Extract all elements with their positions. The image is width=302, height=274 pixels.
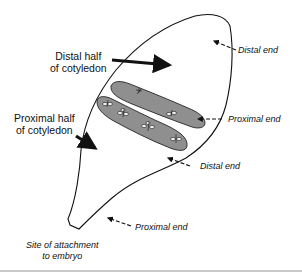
cotyledon-proximal-end-label: Proximal end <box>135 222 188 233</box>
proximal-half-label-line1: Proximal half <box>14 112 75 124</box>
cotyledon-proximal-end-arrow <box>108 218 131 226</box>
distal-half-label-line1: Distal half <box>50 50 107 62</box>
attachment-site-label-line1: Site of attachment <box>26 240 99 251</box>
attachment-site-label: Site of attachment to embryo <box>26 240 99 262</box>
strip-distal-end-label: Distal end <box>200 161 240 172</box>
distal-half-label: Distal half of cotyledon <box>50 50 107 74</box>
distal-half-label-line2: of cotyledon <box>50 62 107 74</box>
bottom-rule <box>0 270 302 272</box>
proximal-half-label: Proximal half of cotyledon <box>14 112 75 136</box>
cotyledon-distal-end-label: Distal end <box>238 45 278 56</box>
strip-proximal-end-label: Proximal end <box>228 114 281 125</box>
cotyledon-distal-end-arrow <box>214 41 236 50</box>
proximal-half-arrow <box>76 136 95 148</box>
proximal-half-label-line2: of cotyledon <box>14 124 75 136</box>
attachment-site-label-line2: to embryo <box>26 251 99 262</box>
